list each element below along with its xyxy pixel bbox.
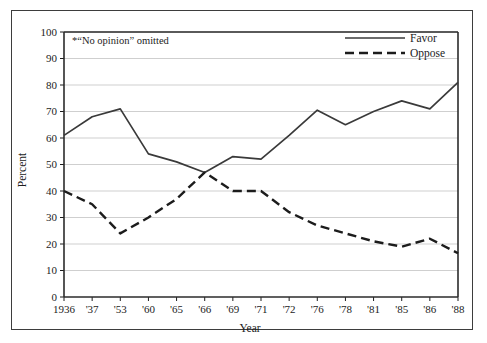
series-line-favor xyxy=(64,82,458,172)
data-series xyxy=(64,82,458,253)
y-tick-label: 90 xyxy=(46,52,58,64)
legend-label-oppose: Oppose xyxy=(410,47,445,60)
legend: FavorOppose xyxy=(345,32,445,60)
y-tick-label: 70 xyxy=(46,105,58,117)
x-tick-label: '69 xyxy=(226,303,239,315)
x-axis-title: Year xyxy=(239,322,260,334)
y-axis-title: Percent xyxy=(16,152,28,187)
legend-label-favor: Favor xyxy=(410,32,437,44)
x-tick-label: '53 xyxy=(114,303,127,315)
x-tick-label: '78 xyxy=(339,303,352,315)
y-tick-label: 80 xyxy=(46,79,58,91)
x-tick-label: '37 xyxy=(86,303,99,315)
x-tick-label: '81 xyxy=(367,303,380,315)
x-axis-ticks: 1936'37'53'60'65'66'69'71'72'76'78'81'85… xyxy=(53,297,465,315)
y-tick-label: 20 xyxy=(46,238,58,250)
y-axis-ticks: 0102030405060708090100 xyxy=(41,26,65,303)
y-tick-label: 30 xyxy=(46,211,58,223)
y-tick-label: 0 xyxy=(52,291,58,303)
y-tick-label: 50 xyxy=(46,158,58,170)
y-tick-label: 10 xyxy=(46,264,58,276)
series-line-oppose xyxy=(64,172,458,253)
x-tick-label: '66 xyxy=(198,303,211,315)
x-tick-label: '60 xyxy=(142,303,155,315)
chart-canvas: 0102030405060708090100 1936'37'53'60'65'… xyxy=(0,0,487,343)
no-opinion-annotation: *“No opinion” omitted xyxy=(72,35,170,46)
y-tick-label: 100 xyxy=(41,26,58,38)
x-tick-label: '71 xyxy=(255,303,268,315)
x-tick-label: '85 xyxy=(395,303,408,315)
line-chart: 0102030405060708090100 1936'37'53'60'65'… xyxy=(0,0,487,343)
x-tick-label: '88 xyxy=(452,303,465,315)
x-tick-label: '76 xyxy=(311,303,324,315)
gridlines xyxy=(64,32,458,271)
y-tick-label: 40 xyxy=(46,185,58,197)
y-tick-label: 60 xyxy=(46,132,58,144)
x-tick-label: '86 xyxy=(423,303,436,315)
x-tick-label: '72 xyxy=(283,303,296,315)
x-tick-label: '65 xyxy=(170,303,183,315)
x-tick-label: 1936 xyxy=(53,303,76,315)
